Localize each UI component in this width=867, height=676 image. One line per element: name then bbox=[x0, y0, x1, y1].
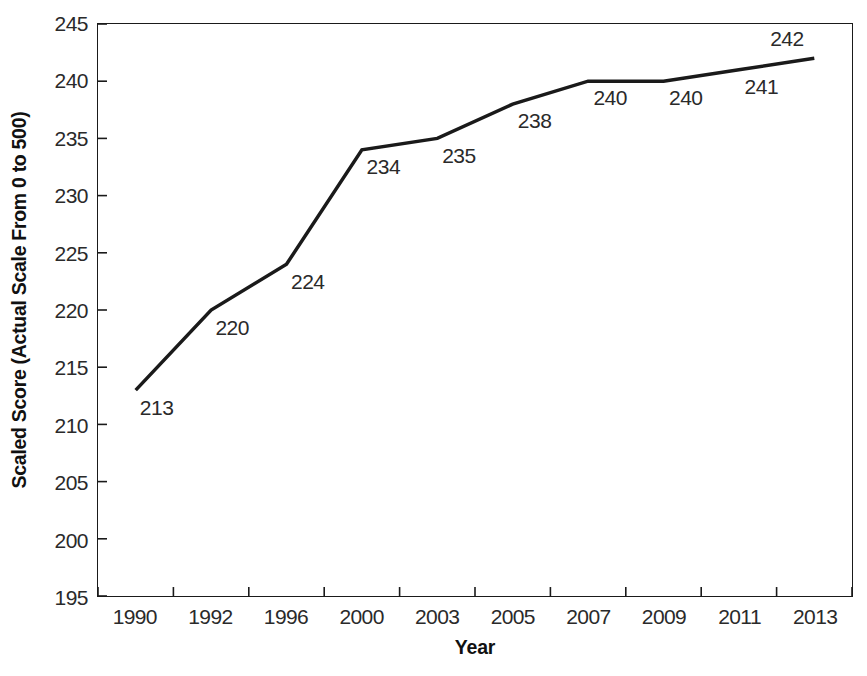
data-point-label: 242 bbox=[770, 28, 804, 49]
y-tick-label: 245 bbox=[2, 13, 88, 34]
data-point-label: 213 bbox=[140, 397, 174, 418]
y-tick-label: 200 bbox=[2, 530, 88, 551]
data-series-line bbox=[136, 58, 815, 390]
data-point-label: 240 bbox=[669, 87, 703, 108]
y-tick-label: 230 bbox=[2, 185, 88, 206]
x-axis-title: Year bbox=[97, 636, 853, 659]
data-point-label: 241 bbox=[745, 76, 779, 97]
x-axis-ticks bbox=[98, 587, 852, 596]
y-tick-label: 205 bbox=[2, 472, 88, 493]
data-point-label: 240 bbox=[593, 87, 627, 108]
x-tick-label: 2013 bbox=[770, 606, 860, 627]
y-axis-tick-labels: 195200205210215220225230235240245 bbox=[0, 0, 88, 676]
y-tick-label: 240 bbox=[2, 70, 88, 91]
plot-area: 213220224234235238240240241242 bbox=[97, 23, 853, 597]
y-tick-label: 235 bbox=[2, 128, 88, 149]
data-point-label: 234 bbox=[367, 156, 401, 177]
y-tick-label: 195 bbox=[2, 587, 88, 608]
y-tick-label: 210 bbox=[2, 415, 88, 436]
data-point-label: 224 bbox=[291, 271, 325, 292]
y-tick-label: 225 bbox=[2, 243, 88, 264]
data-point-label: 235 bbox=[442, 145, 476, 166]
line-chart-figure: Scaled Score (Actual Scale From 0 to 500… bbox=[0, 0, 867, 676]
plot-svg bbox=[98, 24, 852, 596]
y-tick-label: 215 bbox=[2, 357, 88, 378]
x-axis-tick-labels: 1990199219962000200320052007200920112013 bbox=[0, 606, 867, 636]
data-point-label: 238 bbox=[518, 110, 552, 131]
y-axis-ticks bbox=[98, 24, 107, 596]
y-tick-label: 220 bbox=[2, 300, 88, 321]
data-point-label: 220 bbox=[215, 317, 249, 338]
